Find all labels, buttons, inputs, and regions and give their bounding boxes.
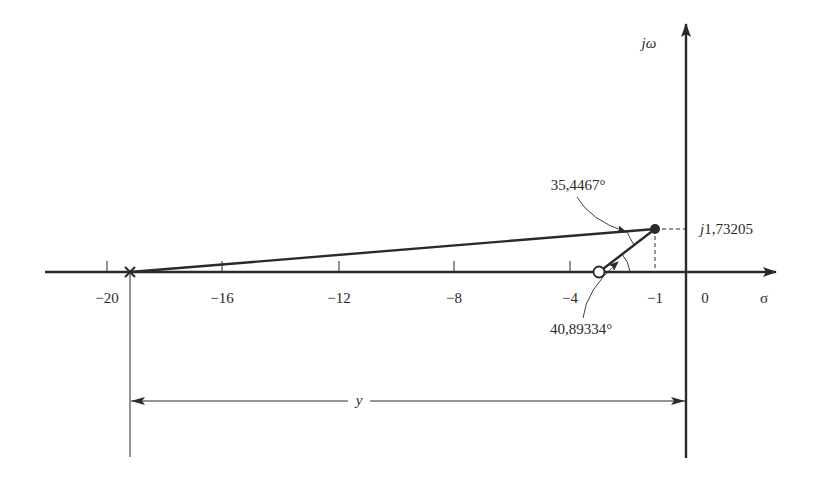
tick-label: −8: [446, 290, 462, 306]
pole-angle-label: 35,4467°: [551, 177, 606, 193]
imag-axis-label: jω: [640, 35, 657, 51]
zero-marker-icon: [594, 267, 605, 278]
dimension-label: y: [354, 392, 363, 408]
imag-value-label: j1,73205: [698, 221, 753, 237]
test-point-marker-icon: [650, 224, 660, 234]
tick-label: −20: [95, 290, 118, 306]
zero-angle-arc: [622, 254, 630, 272]
axis-ticks: [107, 261, 570, 272]
pole-vector: [130, 229, 655, 272]
origin-label: 0: [701, 290, 709, 306]
tick-label: −1: [647, 290, 663, 306]
tick-label: −4: [562, 290, 578, 306]
s-plane-diagram: −20 −16 −12 −8 −4 −1 0 σ jω 35,4467° 40,…: [0, 0, 813, 492]
zero-vector: [599, 229, 655, 272]
pole-angle-arc: [627, 232, 634, 245]
imag-value-number: 1,73205: [704, 221, 753, 237]
pole-angle-leader: [577, 197, 626, 232]
zero-angle-label: 40,89334°: [550, 321, 612, 337]
tick-label: −16: [210, 290, 234, 306]
real-axis-label: σ: [760, 290, 768, 306]
tick-label: −12: [327, 290, 350, 306]
